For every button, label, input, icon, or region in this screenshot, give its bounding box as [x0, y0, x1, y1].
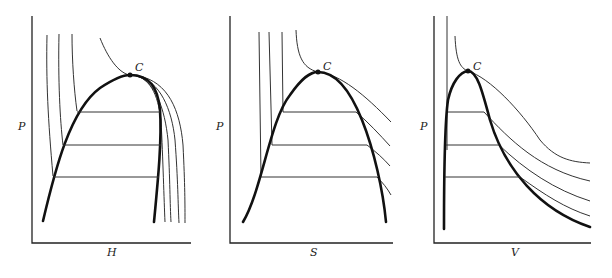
panel-ps: C P S [215, 16, 393, 259]
isotherm-2 [499, 145, 590, 201]
phase-diagrams: C P H C P S C P V [0, 0, 612, 278]
critical-point [466, 69, 471, 74]
critical-label: C [135, 61, 144, 74]
isotherm-1 [259, 32, 261, 177]
x-axis-label: H [106, 246, 117, 259]
saturation-dome [243, 72, 386, 222]
isotherm-critical [296, 30, 391, 122]
isotherm-4 [133, 75, 171, 222]
isotherm-2 [59, 34, 63, 145]
critical-label: C [323, 60, 332, 73]
y-axis-label: P [419, 120, 428, 133]
axes [434, 16, 591, 243]
x-axis-label: S [310, 246, 318, 259]
isotherm-critical [100, 38, 165, 222]
panel-pv: C P V [419, 16, 591, 259]
critical-point [128, 73, 133, 78]
axes [230, 16, 393, 243]
panel-ph: C P H [17, 16, 191, 259]
y-axis-label: P [17, 120, 26, 133]
isotherm-2 [269, 32, 272, 145]
saturation-dome [444, 71, 590, 229]
isotherm-3 [282, 32, 283, 112]
critical-point [316, 70, 321, 75]
critical-label: C [473, 60, 482, 73]
saturation-dome [43, 75, 161, 222]
x-axis-label: V [511, 246, 520, 259]
isotherm-critical [455, 36, 590, 163]
isotherm-3 [72, 34, 77, 111]
isotherm-1 [47, 35, 53, 176]
y-axis-label: P [215, 120, 224, 133]
